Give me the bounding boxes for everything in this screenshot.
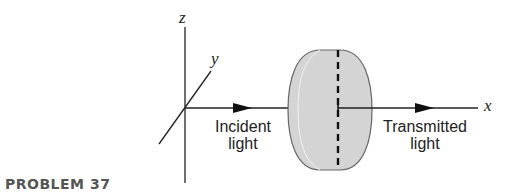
transmitted-line1: Transmitted [375, 118, 475, 135]
incident-arrow-icon [233, 103, 252, 113]
transmitted-line2: light [375, 135, 475, 152]
problem-label: PROBLEM 37 [5, 176, 110, 192]
transmitted-light-label: Transmitted light [375, 118, 475, 152]
x-axis-label: x [484, 96, 492, 116]
polarizer-disk [288, 50, 372, 170]
diagram-canvas [0, 0, 517, 196]
transmitted-arrow-icon [415, 103, 434, 113]
incident-line2: light [203, 135, 283, 152]
incident-light-label: Incident light [203, 118, 283, 152]
z-axis-label: z [179, 8, 186, 28]
incident-line1: Incident [203, 118, 283, 135]
y-axis-label: y [211, 49, 219, 69]
